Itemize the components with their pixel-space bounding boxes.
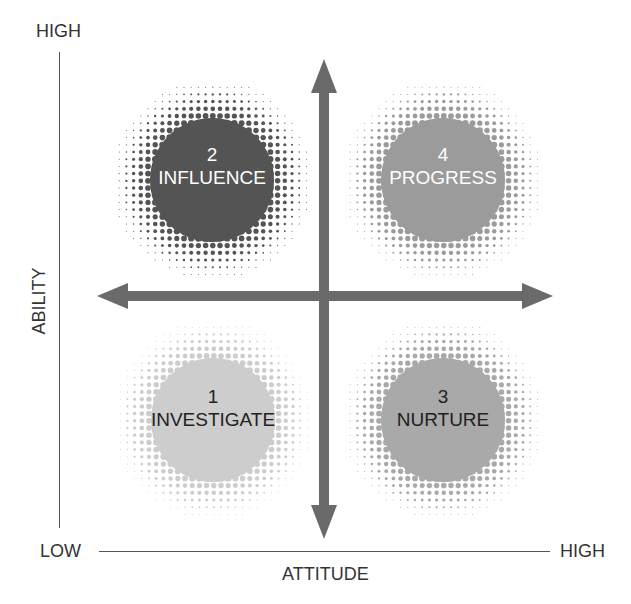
x-axis-high-label: HIGH: [560, 542, 605, 560]
horizontal-arrow-shaft: [122, 291, 528, 301]
quadrant-nurture-label: 3 NURTURE: [397, 385, 490, 431]
diagram-graphics: [0, 0, 631, 604]
quadrant-name: PROGRESS: [389, 166, 497, 189]
quadrant-number: 2: [158, 143, 266, 166]
quadrant-investigate-label: 1 INVESTIGATE: [151, 385, 275, 431]
arrow-up-icon: [311, 59, 337, 93]
quadrant-name: INFLUENCE: [158, 166, 266, 189]
arrow-right-icon: [522, 283, 553, 309]
quadrant-influence-label: 2 INFLUENCE: [158, 143, 266, 189]
y-axis-title: ABILITY: [30, 267, 48, 334]
x-axis-line: [99, 551, 550, 552]
quadrant-name: INVESTIGATE: [151, 408, 275, 431]
x-axis-low-label: LOW: [40, 542, 81, 560]
quadrant-number: 4: [389, 143, 497, 166]
y-axis-high-label: HIGH: [36, 22, 81, 40]
quadrant-progress-label: 4 PROGRESS: [389, 143, 497, 189]
quadrant-diagram: HIGH ABILITY LOW HIGH ATTITUDE 2 INFLUEN…: [0, 0, 631, 604]
quadrant-number: 3: [397, 385, 490, 408]
x-axis-title: ATTITUDE: [282, 565, 369, 583]
quadrant-number: 1: [151, 385, 275, 408]
quadrant-name: NURTURE: [397, 408, 490, 431]
y-axis-line: [59, 52, 60, 528]
arrow-left-icon: [97, 283, 128, 309]
arrow-down-icon: [311, 505, 337, 539]
